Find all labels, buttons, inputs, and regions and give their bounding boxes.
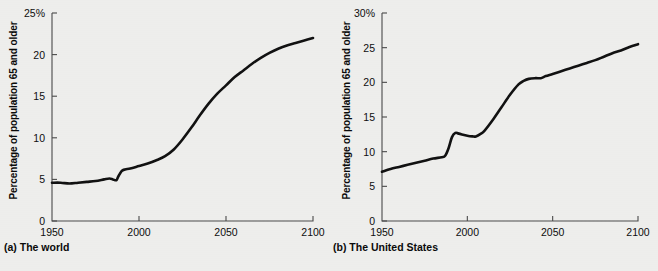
y-tick-label: 10 <box>363 146 375 158</box>
plot-area-b: 051015202530%1950200020502100 <box>329 0 658 271</box>
panel-b-united-states: Percentage of population 65 and older 05… <box>329 0 658 271</box>
panel-caption-b: (b) The United States <box>333 241 438 253</box>
y-tick-label: 25% <box>24 7 45 19</box>
y-tick-label: 10 <box>33 132 45 144</box>
y-tick-label: 15 <box>363 111 375 123</box>
y-tick-label: 15 <box>33 90 45 102</box>
y-tick-label: 20 <box>33 49 45 61</box>
axis-spine <box>382 13 638 221</box>
axis-spine <box>52 13 313 221</box>
x-tick-label: 2000 <box>127 226 151 238</box>
data-series-line <box>52 38 313 184</box>
y-tick-label: 25 <box>363 42 375 54</box>
x-tick-label: 2050 <box>541 226 565 238</box>
x-tick-label: 2050 <box>214 226 238 238</box>
y-tick-label: 30% <box>354 7 375 19</box>
panel-caption-a: (a) The world <box>4 241 69 253</box>
figure-two-panel-line-charts: Percentage of population 65 and older 05… <box>0 0 658 271</box>
plot-area-a: 0510152025%1950200020502100 <box>0 0 329 271</box>
data-series-line <box>382 44 638 172</box>
y-tick-label: 20 <box>363 76 375 88</box>
x-tick-label: 2100 <box>626 226 650 238</box>
y-tick-label: 5 <box>39 173 45 185</box>
x-tick-label: 2000 <box>456 226 480 238</box>
x-tick-label: 1950 <box>370 226 394 238</box>
x-tick-label: 2100 <box>301 226 325 238</box>
x-tick-label: 1950 <box>40 226 64 238</box>
panel-a-world: Percentage of population 65 and older 05… <box>0 0 329 271</box>
y-tick-label: 5 <box>369 180 375 192</box>
